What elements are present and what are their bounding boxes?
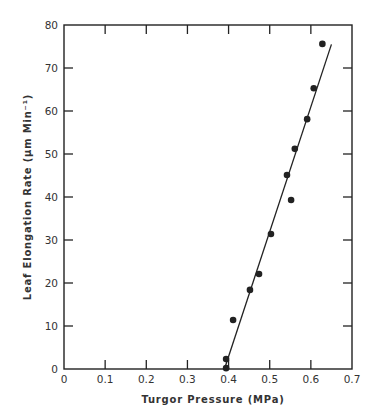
data-point	[304, 116, 311, 123]
plot-frame	[64, 25, 352, 369]
data-point	[268, 231, 275, 238]
y-tick-label: 60	[45, 105, 58, 117]
chart: 00.10.20.30.40.50.60.7 01020304050607080…	[0, 0, 376, 417]
data-point	[288, 197, 295, 204]
y-tick-label: 20	[45, 277, 58, 289]
x-tick-label: 0.7	[344, 373, 361, 385]
data-point	[223, 365, 230, 372]
data-point	[284, 172, 291, 179]
x-tick-label: 0.5	[261, 373, 278, 385]
x-tick-label: 0.2	[138, 373, 155, 385]
data-point	[310, 85, 317, 92]
data-point	[256, 271, 263, 278]
data-points	[223, 41, 326, 372]
data-point	[223, 356, 230, 363]
data-point	[247, 287, 254, 294]
x-tick-label: 0.4	[220, 373, 237, 385]
y-axis-ticks: 01020304050607080	[45, 19, 352, 375]
y-tick-label: 50	[45, 148, 58, 160]
data-point	[292, 146, 299, 153]
x-axis-ticks: 00.10.20.30.40.50.60.7	[61, 25, 361, 385]
fit-line	[224, 44, 331, 369]
y-axis-title: Leaf Elongation Rate (μm Min⁻¹)	[22, 94, 33, 300]
y-tick-label: 80	[45, 19, 58, 31]
y-tick-label: 10	[45, 320, 58, 332]
data-point	[319, 41, 326, 48]
x-tick-label: 0	[61, 373, 68, 385]
data-point	[230, 317, 237, 324]
y-tick-label: 70	[45, 62, 58, 74]
x-tick-label: 0.3	[179, 373, 196, 385]
y-tick-label: 30	[45, 234, 58, 246]
x-tick-label: 0.6	[303, 373, 320, 385]
x-axis-title: Turgor Pressure (MPa)	[141, 394, 284, 405]
y-tick-label: 0	[51, 363, 58, 375]
x-tick-label: 0.1	[97, 373, 114, 385]
y-tick-label: 40	[45, 191, 58, 203]
